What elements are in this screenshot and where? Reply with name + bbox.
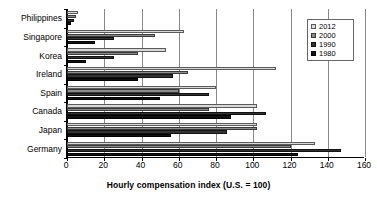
category-label-korea: Korea: [0, 51, 62, 60]
category-label-germany: Germany: [0, 144, 62, 153]
x-tick-label-140: 140: [312, 160, 342, 170]
legend-item-1980[interactable]: 1980: [311, 49, 350, 58]
legend-swatch-icon-2012: [311, 24, 316, 29]
x-tick-label-100: 100: [237, 160, 267, 170]
legend-label-2000: 2000: [319, 32, 336, 40]
x-tick-label-0: 0: [51, 160, 81, 170]
legend-label-2012: 2012: [319, 23, 336, 31]
category-label-japan: Japan: [0, 126, 62, 135]
x-tick-label-40: 40: [126, 160, 156, 170]
legend-swatch-icon-1980: [311, 51, 316, 56]
legend-item-2012[interactable]: 2012: [311, 22, 350, 31]
legend: 2012 2000 1990 1980: [307, 19, 354, 61]
category-label-singapore: Singapore: [0, 32, 62, 41]
legend-swatch-icon-1990: [311, 42, 316, 47]
category-label-spain: Spain: [0, 88, 62, 97]
bar-chart: PhilippinesSingaporeKoreaIrelandSpainCan…: [0, 0, 377, 202]
legend-label-1990: 1990: [319, 41, 336, 49]
x-axis-title: Hourly compensation index (U.S. = 100): [0, 180, 377, 190]
category-label-ireland: Ireland: [0, 70, 62, 79]
category-label-philippines: Philippines: [0, 14, 62, 23]
legend-item-2000[interactable]: 2000: [311, 31, 350, 40]
x-tick-label-20: 20: [88, 160, 118, 170]
legend-swatch-icon-2000: [311, 33, 316, 38]
x-tick-label-120: 120: [275, 160, 305, 170]
x-tick-label-160: 160: [349, 160, 377, 170]
legend-item-1990[interactable]: 1990: [311, 40, 350, 49]
x-tick-label-60: 60: [163, 160, 193, 170]
x-tick-label-80: 80: [200, 160, 230, 170]
legend-label-1980: 1980: [319, 50, 336, 58]
category-label-canada: Canada: [0, 107, 62, 116]
